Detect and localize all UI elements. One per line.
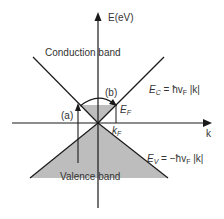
transition-b-label: (b) <box>105 88 117 98</box>
ec-symbol: E <box>149 84 156 95</box>
transition-b-arc <box>80 98 113 106</box>
valence-band-label: Valence band <box>60 172 120 182</box>
ec-rhs: = ħv <box>161 84 183 95</box>
ev-rhs: = −ħv <box>158 153 186 164</box>
k-axis-label: k <box>206 129 211 139</box>
ev-abs-k: |k| <box>190 153 203 164</box>
conduction-band-label: Conduction band <box>45 48 121 58</box>
fermi-wavevector-label: kF <box>112 126 121 137</box>
band-structure-diagram: E(eV) k Conduction band Valence band (a)… <box>0 0 224 219</box>
energy-axis-label: E(eV) <box>108 13 134 23</box>
energy-axis-arrowhead <box>95 12 102 21</box>
ec-abs-k: |k| <box>187 84 200 95</box>
fermi-energy-label: EF <box>120 105 131 116</box>
ev-symbol: E <box>147 153 154 164</box>
fermi-energy-symbol: E <box>120 104 127 115</box>
conduction-band-equation: EC = ħvF |k| <box>149 85 200 96</box>
transition-a-label: (a) <box>61 111 73 121</box>
valence-band-equation: EV = −ħvF |k| <box>147 154 203 165</box>
valence-band-fill <box>30 123 168 178</box>
fermi-energy-subscript: F <box>127 109 131 116</box>
diagram-graphics <box>0 0 224 219</box>
transition-b-arrowhead <box>109 99 117 106</box>
fermi-wavevector-subscript: F <box>117 130 121 137</box>
k-axis-arrowhead <box>203 119 212 127</box>
